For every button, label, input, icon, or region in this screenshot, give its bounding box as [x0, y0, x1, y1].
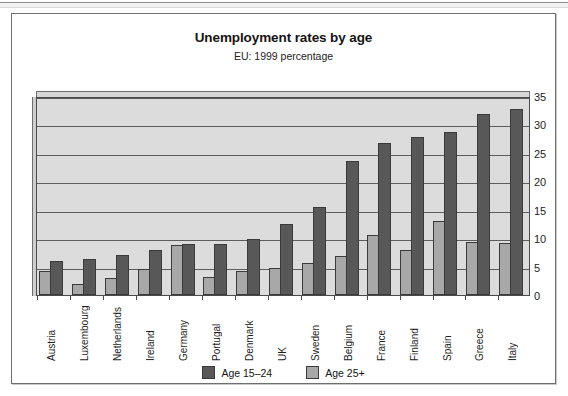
bar-age-15-24-finland[interactable] [411, 137, 424, 295]
x-axis-tick-labels: AustriaLuxembourgNetherlandsIrelandGerma… [36, 299, 530, 361]
chart-legend: Age 15–24Age 25+ [12, 366, 555, 379]
legend-item[interactable]: Age 15–24 [202, 366, 272, 379]
x-tick-label-netherlands: Netherlands [113, 299, 123, 361]
x-label-slot-denmark: Denmark [235, 299, 265, 361]
bar-group-germany[interactable] [170, 98, 200, 295]
x-label-slot-germany: Germany [169, 299, 199, 361]
bar-group-denmark[interactable] [235, 98, 265, 295]
bar-group-sweden[interactable] [301, 98, 331, 295]
bar-age-15-24-uk[interactable] [280, 224, 293, 295]
x-label-slot-belgium: Belgium [334, 299, 364, 361]
x-tick-label-portugal: Portugal [212, 299, 222, 361]
x-tick-label-germany: Germany [179, 299, 189, 361]
bar-age-15-24-luxembourg[interactable] [83, 259, 96, 295]
x-tick-label-italy: Italy [508, 299, 518, 361]
plot-wrapper [32, 91, 530, 296]
bar-age-15-24-france[interactable] [378, 143, 391, 295]
x-label-slot-italy: Italy [498, 299, 528, 361]
legend-swatch-age-25-plus [306, 366, 319, 379]
y-tick-label-0: 0 [534, 290, 540, 302]
x-tick-label-belgium: Belgium [344, 299, 354, 361]
bar-age-15-24-ireland[interactable] [149, 250, 162, 295]
y-tick-label-10: 10 [534, 233, 546, 245]
legend-swatch-age-15-24 [202, 366, 215, 379]
x-label-slot-luxembourg: Luxembourg [70, 299, 100, 361]
x-label-slot-netherlands: Netherlands [103, 299, 133, 361]
bar-age-15-24-denmark[interactable] [247, 239, 260, 295]
bars-layer [37, 98, 529, 295]
legend-label: Age 25+ [325, 367, 364, 379]
x-label-slot-uk: UK [268, 299, 298, 361]
bar-age-15-24-spain[interactable] [444, 132, 457, 295]
bar-age-15-24-sweden[interactable] [313, 207, 326, 295]
x-tick-label-ireland: Ireland [146, 299, 156, 361]
figure-container: Unemployment rates by age EU: 1999 perce… [11, 13, 556, 384]
legend-item[interactable]: Age 25+ [306, 366, 364, 379]
x-label-slot-france: France [367, 299, 397, 361]
y-tick-label-35: 35 [534, 91, 546, 103]
x-label-slot-finland: Finland [400, 299, 430, 361]
x-tick-label-finland: Finland [410, 299, 420, 361]
y-axis-tick-labels: 05101520253035 [534, 91, 568, 303]
x-tick-label-uk: UK [278, 299, 288, 361]
bar-group-austria[interactable] [38, 98, 68, 295]
x-label-slot-sweden: Sweden [301, 299, 331, 361]
y-tick-label-5: 5 [534, 262, 540, 274]
chart-title: Unemployment rates by age [12, 30, 555, 45]
x-label-slot-spain: Spain [433, 299, 463, 361]
bar-age-15-24-belgium[interactable] [346, 161, 359, 295]
x-label-slot-greece: Greece [465, 299, 495, 361]
bar-group-uk[interactable] [268, 98, 298, 295]
bar-group-ireland[interactable] [137, 98, 167, 295]
y-tick-label-20: 20 [534, 176, 546, 188]
x-label-slot-portugal: Portugal [202, 299, 232, 361]
bar-age-15-24-portugal[interactable] [214, 244, 227, 295]
x-tick-label-france: France [377, 299, 387, 361]
bar-group-france[interactable] [366, 98, 396, 295]
x-tick-label-luxembourg: Luxembourg [80, 299, 90, 361]
x-tick-label-spain: Spain [443, 299, 453, 361]
bar-group-finland[interactable] [399, 98, 429, 295]
bar-group-netherlands[interactable] [104, 98, 134, 295]
y-tick-label-30: 30 [534, 119, 546, 131]
legend-label: Age 15–24 [221, 367, 272, 379]
bar-age-15-24-greece[interactable] [477, 114, 490, 295]
page-top-rule [0, 2, 568, 8]
x-tick-label-sweden: Sweden [311, 299, 321, 361]
bar-age-15-24-netherlands[interactable] [116, 255, 129, 295]
x-label-slot-ireland: Ireland [136, 299, 166, 361]
bar-age-15-24-austria[interactable] [50, 261, 63, 295]
bar-group-greece[interactable] [465, 98, 495, 295]
bar-age-15-24-germany[interactable] [182, 244, 195, 295]
bar-group-portugal[interactable] [202, 98, 232, 295]
bar-age-15-24-italy[interactable] [510, 109, 523, 295]
x-label-slot-austria: Austria [37, 299, 67, 361]
plot-area [36, 97, 530, 296]
bar-group-italy[interactable] [498, 98, 528, 295]
x-tick-label-denmark: Denmark [245, 299, 255, 361]
bar-group-luxembourg[interactable] [71, 98, 101, 295]
bar-group-belgium[interactable] [334, 98, 364, 295]
x-tick-label-greece: Greece [475, 299, 485, 361]
bar-group-spain[interactable] [432, 98, 462, 295]
y-tick-label-25: 25 [534, 148, 546, 160]
y-tick-label-15: 15 [534, 205, 546, 217]
chart-subtitle: EU: 1999 percentage [12, 50, 555, 62]
x-tick-label-austria: Austria [47, 299, 57, 361]
